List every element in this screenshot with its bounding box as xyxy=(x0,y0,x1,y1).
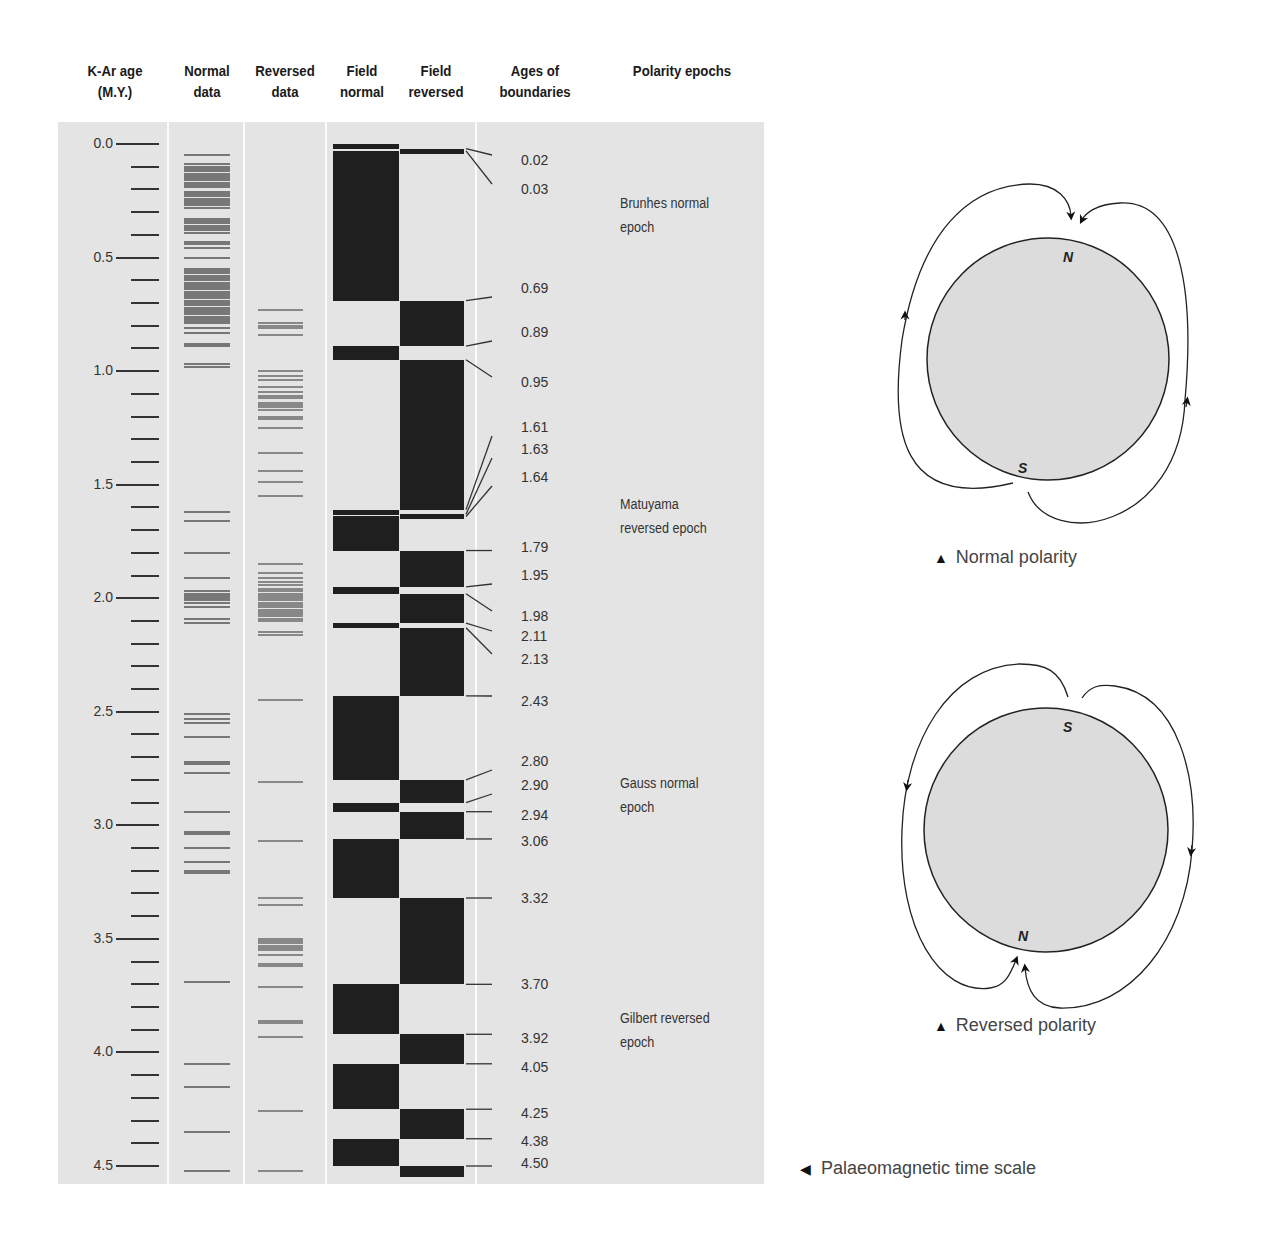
minor-tick xyxy=(131,733,159,735)
major-tick xyxy=(116,484,159,486)
reversed-data-line xyxy=(258,1022,303,1024)
minor-tick xyxy=(131,1097,159,1099)
minor-tick xyxy=(131,279,159,281)
field-reversed-block xyxy=(400,628,464,696)
boundary-age-label: 3.06 xyxy=(521,833,548,849)
column-separator xyxy=(243,122,245,1184)
minor-tick xyxy=(131,211,159,213)
boundary-age-label: 3.70 xyxy=(521,976,548,992)
earth-circle xyxy=(924,708,1168,952)
reversed-data-line xyxy=(258,584,303,586)
minor-tick xyxy=(131,506,159,508)
minor-tick xyxy=(131,552,159,554)
reversed-data-line xyxy=(258,495,303,497)
minor-tick xyxy=(131,1074,159,1076)
reversed-data-line xyxy=(258,386,303,388)
major-tick xyxy=(116,257,159,259)
major-tick xyxy=(116,1165,159,1167)
header-field-normal: Field normal xyxy=(334,60,390,102)
earth-circle xyxy=(927,238,1169,480)
minor-tick xyxy=(131,461,159,463)
minor-tick xyxy=(131,529,159,531)
normal-data-line xyxy=(184,602,230,604)
normal-polarity-diagram: N S xyxy=(880,170,1220,570)
caption-text: Reversed polarity xyxy=(956,1015,1096,1035)
normal-data-line xyxy=(184,322,230,324)
triangle-left-icon: ◀ xyxy=(800,1161,811,1177)
reversed-data-line xyxy=(258,370,303,372)
normal-data-line xyxy=(184,366,230,368)
boundary-age-label: 0.89 xyxy=(521,324,548,340)
boundary-age-label: 4.05 xyxy=(521,1059,548,1075)
major-tick xyxy=(116,711,159,713)
normal-data-line xyxy=(184,232,230,234)
header-line: Field xyxy=(334,60,390,81)
normal-data-line xyxy=(184,847,230,849)
column-separator xyxy=(325,122,327,1184)
field-reversed-block xyxy=(400,898,464,984)
boundary-age-label: 1.79 xyxy=(521,539,548,555)
header-line: reversed xyxy=(403,81,470,102)
field-arrow-up-right xyxy=(1186,401,1187,407)
field-normal-block xyxy=(333,151,399,301)
normal-data-line xyxy=(184,622,230,624)
boundary-age-label: 2.80 xyxy=(521,753,548,769)
minor-tick xyxy=(131,234,159,236)
reversed-data-line xyxy=(258,781,303,783)
boundary-age-label: 2.90 xyxy=(521,777,548,793)
minor-tick xyxy=(131,575,159,577)
minor-tick xyxy=(131,802,159,804)
normal-data-line xyxy=(184,520,230,522)
normal-data-line xyxy=(184,833,230,835)
reversed-data-line xyxy=(258,379,303,381)
normal-data-line xyxy=(184,1086,230,1088)
field-reversed-block xyxy=(400,301,464,346)
reversed-data-line xyxy=(258,397,303,399)
field-reversed-block xyxy=(400,780,464,803)
normal-data-line xyxy=(184,722,230,724)
reversed-data-line xyxy=(258,572,303,574)
header-line: data xyxy=(245,81,324,102)
reversed-data-line xyxy=(258,949,303,951)
header-field-reversed: Field reversed xyxy=(403,60,470,102)
tick-label: 0.5 xyxy=(63,249,113,265)
header-line: Ages of xyxy=(494,60,577,81)
field-normal-block xyxy=(333,1064,399,1109)
normal-data-line xyxy=(184,811,230,813)
field-normal-block xyxy=(333,623,399,628)
normal-data-line xyxy=(184,154,230,156)
boundary-age-label: 1.61 xyxy=(521,419,548,435)
normal-data-line xyxy=(184,772,230,774)
normal-data-line xyxy=(184,186,230,188)
header-line: Field xyxy=(403,60,470,81)
tick-label: 4.0 xyxy=(63,1043,113,1059)
minor-tick xyxy=(131,983,159,985)
reversed-data-line xyxy=(258,986,303,988)
tick-label: 2.5 xyxy=(63,703,113,719)
field-normal-block xyxy=(333,839,399,898)
reversed-data-line xyxy=(258,1036,303,1038)
minor-tick xyxy=(131,870,159,872)
field-normal-block xyxy=(333,516,399,550)
reversed-data-line xyxy=(258,620,303,622)
header-line: data xyxy=(174,81,239,102)
minor-tick xyxy=(131,1142,159,1144)
reversed-polarity-caption: ▲Reversed polarity xyxy=(934,1015,1096,1036)
epoch-line: Gilbert reversed xyxy=(620,1006,710,1030)
minor-tick xyxy=(131,438,159,440)
tick-label: 0.0 xyxy=(63,135,113,151)
reversed-data-line xyxy=(258,699,303,701)
epoch-line: Brunhes normal xyxy=(620,191,709,215)
pole-label-bottom: N xyxy=(1018,928,1029,944)
field-reversed-block xyxy=(400,360,464,510)
major-tick xyxy=(116,824,159,826)
boundary-age-label: 2.11 xyxy=(521,628,547,644)
minor-tick xyxy=(131,665,159,667)
epoch-label-brunhes: Brunhes normal epoch xyxy=(620,191,709,239)
minor-tick xyxy=(131,620,159,622)
epoch-label-gilbert: Gilbert reversed epoch xyxy=(620,1006,710,1054)
header-line: boundaries xyxy=(494,81,577,102)
tick-label: 4.5 xyxy=(63,1157,113,1173)
reversed-data-line xyxy=(258,409,303,411)
reversed-data-line xyxy=(258,418,303,420)
